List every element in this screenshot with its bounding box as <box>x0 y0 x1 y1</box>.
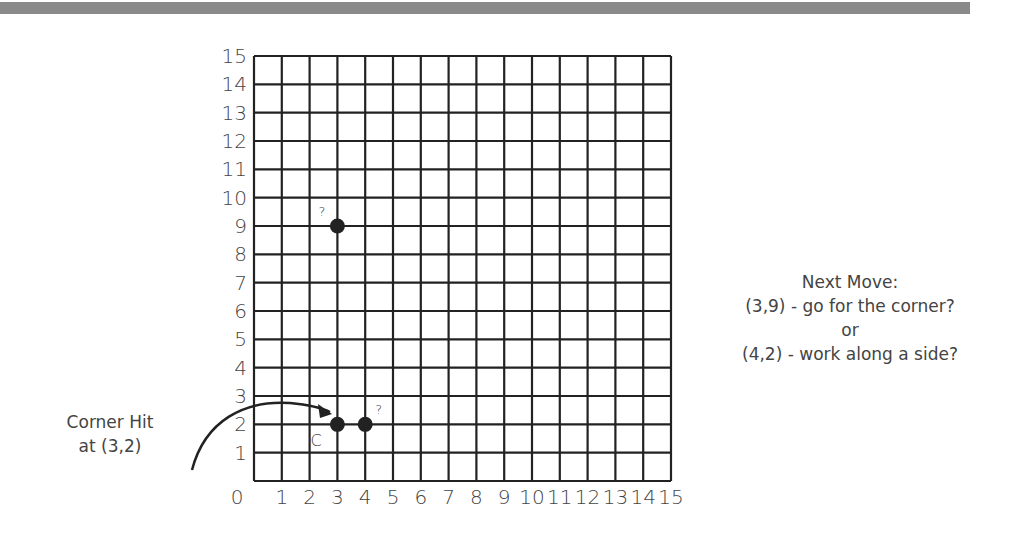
x-axis-label: 3 <box>331 485 344 509</box>
x-axis-label: 4 <box>359 485 372 509</box>
y-axis-label: 14 <box>222 72 247 96</box>
y-axis-label: 3 <box>234 384 247 408</box>
x-axis-label: 10 <box>519 485 544 509</box>
x-axis-label: 13 <box>603 485 628 509</box>
x-axis-label: 8 <box>470 485 483 509</box>
x-axis-label: 6 <box>414 485 427 509</box>
option-corner: (3,9) - go for the corner? <box>690 294 1010 318</box>
x-axis-label: 1 <box>275 485 288 509</box>
x-axis-label: 0 <box>231 485 244 509</box>
x-axis-label: 12 <box>575 485 600 509</box>
x-axis-label: 11 <box>547 485 572 509</box>
x-axis-label: 15 <box>658 485 683 509</box>
question-marker-label: ? <box>375 402 382 417</box>
x-axis-label: 2 <box>303 485 316 509</box>
y-axis-label: 10 <box>222 186 247 210</box>
x-axis-label: 5 <box>387 485 400 509</box>
shot-marker <box>330 417 345 432</box>
next-move-note: Next Move: (3,9) - go for the corner? or… <box>690 270 1010 366</box>
y-axis-label: 15 <box>222 44 247 68</box>
option-or: or <box>690 318 1010 342</box>
next-move-title: Next Move: <box>690 270 1010 294</box>
y-axis-label: 9 <box>234 214 247 238</box>
corner-hit-note: Corner Hit at (3,2) <box>40 410 180 458</box>
y-axis-label: 12 <box>222 129 247 153</box>
shot-marker <box>358 417 373 432</box>
corner-hit-line1: Corner Hit <box>40 410 180 434</box>
y-axis-label: 8 <box>234 242 247 266</box>
corner-marker-label: C <box>310 431 321 450</box>
y-axis-label: 6 <box>234 299 247 323</box>
corner-hit-line2: at (3,2) <box>40 434 180 458</box>
y-axis-label: 5 <box>234 327 247 351</box>
y-axis-label: 4 <box>234 356 247 380</box>
y-axis-label: 13 <box>222 101 247 125</box>
y-axis-label: 1 <box>234 441 247 465</box>
y-axis-label: 2 <box>234 412 247 436</box>
y-axis-label: 11 <box>222 157 247 181</box>
y-axis-label: 7 <box>234 271 247 295</box>
question-marker-label: ? <box>318 204 325 219</box>
x-axis-label: 14 <box>630 485 655 509</box>
shot-marker <box>330 219 345 234</box>
option-side: (4,2) - work along a side? <box>690 342 1010 366</box>
x-axis-label: 7 <box>442 485 455 509</box>
x-axis-label: 9 <box>498 485 511 509</box>
